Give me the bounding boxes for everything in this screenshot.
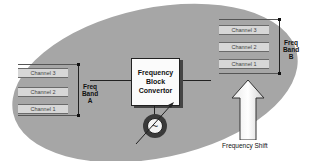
band-a-bracket — [78, 64, 79, 116]
band-b-channel-3: Channel 3 — [219, 25, 269, 35]
convertor-label-line: Block — [132, 77, 179, 86]
band-b-channel-1: Channel 1 — [219, 59, 269, 69]
band-b-channel-2: Channel 2 — [219, 42, 269, 52]
channel-label: Channel 1 — [30, 106, 55, 112]
band-a-label: Freq Band A — [80, 83, 100, 104]
band-b-top-line — [219, 19, 279, 20]
channel-label: Channel 1 — [231, 61, 256, 67]
output-line — [181, 80, 211, 81]
channel-label: Channel 3 — [231, 27, 256, 33]
channel-label: Channel 2 — [231, 44, 256, 50]
frequency-shift-arrow-icon — [228, 78, 268, 140]
band-b-bracket-top — [278, 18, 281, 21]
input-line — [90, 80, 131, 81]
convertor-label-line: Frequency — [132, 68, 179, 77]
band-a-channel-3: Channel 3 — [18, 68, 68, 78]
tuning-arrow-icon — [132, 98, 182, 148]
band-a-label-line: Freq — [80, 83, 100, 90]
band-b-bottom-line — [219, 73, 279, 74]
band-a-bottom-line — [18, 115, 78, 116]
band-a-top-line — [18, 64, 78, 65]
band-b-label-line: B — [281, 53, 301, 60]
band-a-channel-2: Channel 2 — [18, 87, 68, 97]
frequency-shift-label: Frequency Shift — [222, 142, 268, 149]
band-a-channel-1: Channel 1 — [18, 104, 68, 114]
band-a-bracket-top — [77, 63, 80, 66]
channel-label: Channel 2 — [30, 89, 55, 95]
band-a-label-line: A — [80, 97, 100, 104]
diagram-canvas: Channel 3 Channel 2 Channel 1 Freq Band … — [0, 0, 319, 161]
band-a-bracket-bottom — [77, 114, 80, 117]
band-b-bracket — [279, 19, 280, 74]
convertor-label-line: Convertor — [132, 86, 179, 95]
band-b-label-line: Freq — [281, 39, 301, 46]
band-b-bracket-bottom — [278, 72, 281, 75]
band-b-label-line: Band — [281, 46, 301, 53]
band-a-label-line: Band — [80, 90, 100, 97]
band-b-label: Freq Band B — [281, 39, 301, 60]
channel-label: Channel 3 — [30, 70, 55, 76]
